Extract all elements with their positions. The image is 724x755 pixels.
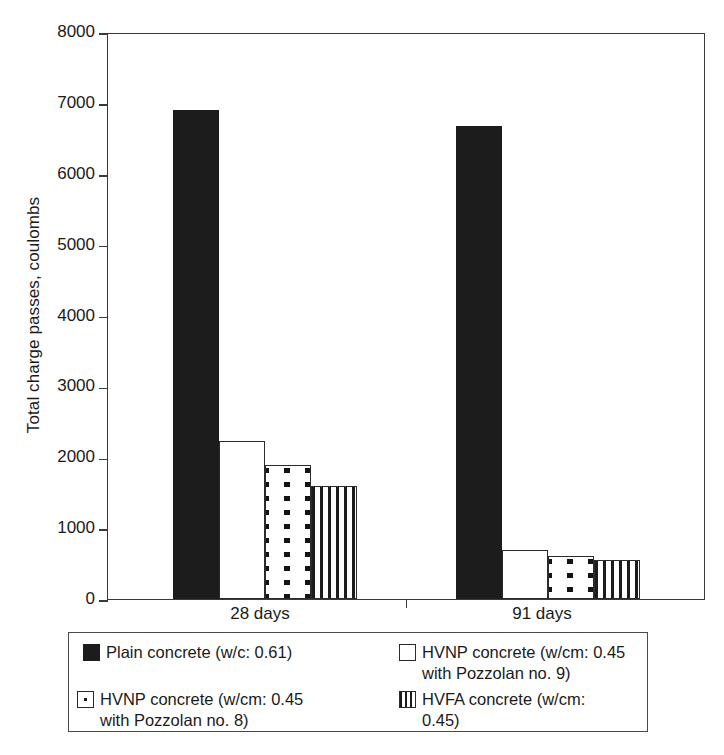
y-tick-mark xyxy=(99,175,108,176)
y-tick-label: 3000 xyxy=(57,376,95,396)
vertical-lines-swatch-icon xyxy=(399,691,416,708)
y-tick-mark xyxy=(99,104,108,105)
legend-entry-plain-concrete: Plain concrete (w/c: 0.61) xyxy=(83,642,363,663)
legend-entry-hvfa: HVFA concrete (w/cm: 0.45) xyxy=(399,689,639,731)
legend-entry-hvnp-pozzolan9: HVNP concrete (w/cm: 0.45 with Pozzolan … xyxy=(399,642,639,684)
legend-label: HVNP concrete (w/cm: 0.45 with Pozzolan … xyxy=(100,689,303,731)
bar-28days-hvfa xyxy=(311,486,357,599)
y-tick-label: 6000 xyxy=(57,164,95,184)
bar-28days-hvnp-pozzolan9 xyxy=(219,441,265,599)
x-axis-label-28-days: 28 days xyxy=(180,604,340,624)
y-tick-mark xyxy=(99,317,108,318)
bar-91days-plain-concrete xyxy=(456,126,502,599)
y-axis-title: Total charge passes, coulombs xyxy=(24,115,44,515)
y-tick-label: 8000 xyxy=(57,22,95,42)
y-tick-mark xyxy=(99,600,108,601)
bar-91days-hvnp-pozzolan9 xyxy=(502,550,548,599)
bar-28days-hvnp-pozzolan8 xyxy=(265,465,311,599)
x-axis-label-91-days: 91 days xyxy=(462,604,622,624)
legend-box: Plain concrete (w/c: 0.61) HVNP concrete… xyxy=(68,632,648,732)
y-tick-mark xyxy=(99,33,108,34)
legend-label: HVNP concrete (w/cm: 0.45 with Pozzolan … xyxy=(422,642,625,684)
legend-label: Plain concrete (w/c: 0.61) xyxy=(106,642,292,663)
y-tick-mark xyxy=(99,529,108,530)
y-tick-mark xyxy=(99,459,108,460)
y-tick-label: 5000 xyxy=(57,235,95,255)
y-tick-mark xyxy=(99,246,108,247)
y-tick-label: 7000 xyxy=(57,93,95,113)
bar-91days-hvnp-pozzolan8 xyxy=(548,556,594,599)
y-tick-label: 2000 xyxy=(57,447,95,467)
chart-figure: Total charge passes, coulombs 8000 7000 … xyxy=(0,0,724,755)
legend-label: HVFA concrete (w/cm: 0.45) xyxy=(422,689,585,731)
bar-91days-hvfa xyxy=(594,560,640,599)
plot-area: 8000 7000 6000 5000 4000 3000 2000 1000 … xyxy=(107,33,705,600)
y-tick-label: 0 xyxy=(86,589,95,609)
y-tick-label: 1000 xyxy=(57,518,95,538)
y-tick-label: 4000 xyxy=(57,306,95,326)
bar-28days-plain-concrete xyxy=(173,110,219,599)
legend-entry-hvnp-pozzolan8: HVNP concrete (w/cm: 0.45 with Pozzolan … xyxy=(77,689,377,731)
solid-black-swatch-icon xyxy=(83,644,100,661)
empty-white-swatch-icon xyxy=(399,644,416,661)
dotted-swatch-icon xyxy=(77,691,94,708)
x-tick-middle xyxy=(406,599,407,608)
y-tick-mark xyxy=(99,388,108,389)
